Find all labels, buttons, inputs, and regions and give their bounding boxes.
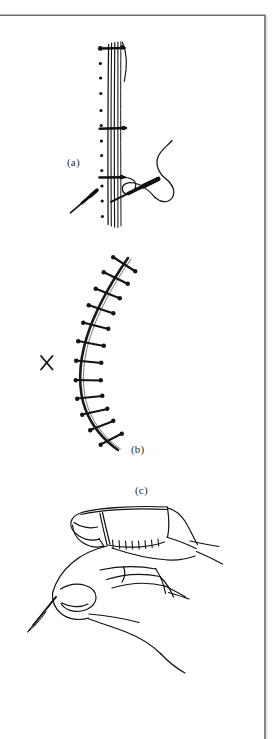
- panel-label-c: (c): [135, 484, 148, 496]
- panel-label-b: (b): [131, 443, 144, 455]
- panel-label-a: (a): [67, 156, 80, 168]
- figure-page: (a) (b) (c): [0, 0, 277, 739]
- surgical-figure-illustration: [0, 0, 277, 739]
